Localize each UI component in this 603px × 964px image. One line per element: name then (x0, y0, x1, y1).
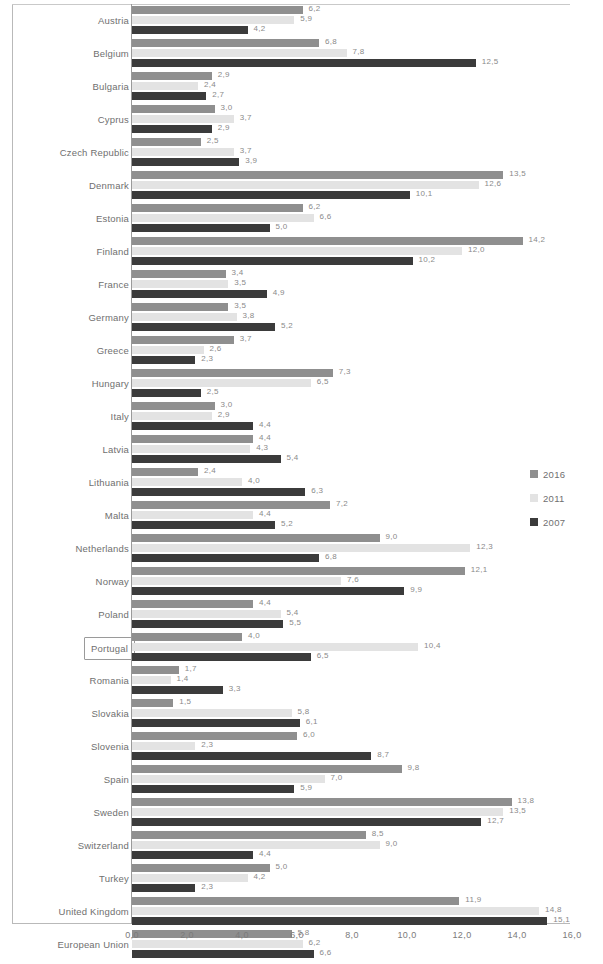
bar-value-label: 6,6 (320, 212, 332, 221)
chart-row: Hungary7,36,52,5 (0, 367, 603, 400)
category-label: Netherlands (76, 532, 129, 565)
chart-row: Poland4,45,45,5 (0, 598, 603, 631)
category-label: Estonia (96, 202, 129, 235)
bar-value-label: 6,3 (311, 486, 323, 495)
bar-value-label: 10,4 (424, 641, 441, 650)
bar-value-label: 4,9 (273, 288, 285, 297)
bar-group: 3,43,54,9 (132, 270, 572, 300)
bar-group: 12,17,69,9 (132, 567, 572, 597)
bar-value-label: 7,3 (339, 367, 351, 376)
legend-label: 2007 (543, 517, 565, 528)
bar-2007 (132, 818, 481, 826)
chart-row: Bulgaria2,92,42,7 (0, 70, 603, 103)
bar-2007 (132, 884, 195, 892)
bar-2011 (132, 346, 204, 354)
bar-value-label: 2,4 (204, 80, 216, 89)
chart-row: Spain9,87,05,9 (0, 763, 603, 796)
bar-value-label: 12,0 (468, 245, 485, 254)
bar-value-label: 2,5 (207, 387, 219, 396)
bar-value-label: 4,4 (259, 420, 271, 429)
bar-2007 (132, 422, 253, 430)
bar-value-label: 8,7 (377, 750, 389, 759)
x-axis-tick-label: 12,0 (452, 930, 471, 940)
bar-group: 6,26,65,0 (132, 204, 572, 234)
bar-2007 (132, 785, 294, 793)
bar-chart: Austria6,25,94,2Belgium6,87,812,5Bulgari… (0, 0, 603, 964)
bar-group: 4,45,45,5 (132, 600, 572, 630)
x-axis-tick-label: 14,0 (507, 930, 526, 940)
chart-row: Lithuania2,44,06,3 (0, 466, 603, 499)
bar-2007 (132, 917, 547, 925)
chart-row: Slovenia6,02,38,7 (0, 730, 603, 763)
bar-group: 2,53,73,9 (132, 138, 572, 168)
bar-value-label: 7,8 (353, 47, 365, 56)
bar-2011 (132, 181, 479, 189)
bar-value-label: 7,2 (336, 499, 348, 508)
category-label: Cyprus (98, 103, 129, 136)
bar-2007 (132, 191, 410, 199)
category-label: France (98, 268, 129, 301)
bar-2016 (132, 303, 228, 311)
bar-group: 14,212,010,2 (132, 237, 572, 267)
bar-2011 (132, 577, 341, 585)
bar-group: 13,813,512,7 (132, 798, 572, 828)
category-label: Finland (96, 235, 129, 268)
bar-2016 (132, 171, 503, 179)
bar-2016 (132, 72, 212, 80)
bar-value-label: 5,4 (287, 453, 299, 462)
bar-group: 3,02,94,4 (132, 402, 572, 432)
bar-value-label: 6,2 (309, 202, 321, 211)
bar-2007 (132, 653, 311, 661)
chart-row: Turkey5,04,22,3 (0, 862, 603, 895)
bar-2007 (132, 587, 404, 595)
bar-value-label: 2,9 (218, 123, 230, 132)
bar-2007 (132, 488, 305, 496)
bar-2016 (132, 237, 523, 245)
bar-2016 (132, 402, 215, 410)
category-label: Turkey (99, 862, 129, 895)
chart-legend: 201620112007 (530, 462, 600, 534)
category-label: Lithuania (89, 466, 129, 499)
bar-value-label: 2,4 (204, 466, 216, 475)
bar-2007 (132, 851, 253, 859)
category-label: Poland (98, 598, 129, 631)
legend-item[interactable]: 2011 (530, 486, 600, 510)
bar-2016 (132, 501, 330, 509)
category-label: Romania (90, 664, 129, 697)
bar-2011 (132, 148, 234, 156)
bar-2011 (132, 280, 228, 288)
bar-2016 (132, 336, 234, 344)
bar-2016 (132, 435, 253, 443)
bar-value-label: 3,7 (240, 334, 252, 343)
bar-2007 (132, 323, 275, 331)
bar-2007 (132, 950, 314, 958)
bar-2011 (132, 841, 380, 849)
bar-2011 (132, 775, 325, 783)
bar-group: 9,012,36,8 (132, 534, 572, 564)
legend-item[interactable]: 2016 (530, 462, 600, 486)
bar-group: 5,04,22,3 (132, 864, 572, 894)
bar-value-label: 4,2 (254, 24, 266, 33)
legend-swatch-icon (530, 518, 538, 526)
bar-2016 (132, 600, 253, 608)
category-label: Slovenia (91, 730, 129, 763)
legend-label: 2011 (543, 493, 565, 504)
bar-group: 8,59,04,4 (132, 831, 572, 861)
bar-2007 (132, 290, 267, 298)
bar-2007 (132, 59, 476, 67)
category-label: Slovakia (91, 697, 129, 730)
chart-row: Netherlands9,012,36,8 (0, 532, 603, 565)
bar-2016 (132, 798, 512, 806)
bar-2016 (132, 897, 459, 905)
bar-value-label: 14,2 (529, 235, 546, 244)
bar-2016 (132, 204, 303, 212)
chart-rows: Austria6,25,94,2Belgium6,87,812,5Bulgari… (0, 4, 603, 961)
bar-2011 (132, 643, 418, 651)
bar-2011 (132, 907, 539, 915)
bar-2007 (132, 224, 270, 232)
bar-value-label: 6,5 (317, 377, 329, 386)
chart-row: Czech Republic2,53,73,9 (0, 136, 603, 169)
bar-group: 4,010,46,5 (132, 633, 572, 663)
legend-item[interactable]: 2007 (530, 510, 600, 534)
bar-2007 (132, 686, 223, 694)
